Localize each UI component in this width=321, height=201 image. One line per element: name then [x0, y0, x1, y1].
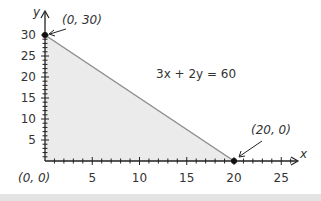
x-tick-label: 25	[274, 171, 289, 185]
x-tick-label: 5	[88, 171, 96, 185]
x-tick-label: 10	[132, 171, 147, 185]
arrowhead-20-0-icon	[239, 151, 245, 157]
y-tick-label: 20	[21, 70, 36, 84]
arrow-20-0-icon	[240, 141, 262, 156]
equation-label: 3x + 2y = 60	[156, 67, 236, 81]
chart-figure: 510152025 51015202530 x y (0, 30) (20, 0…	[0, 0, 321, 201]
point-label-0-30: (0, 30)	[62, 13, 102, 27]
bottom-band	[0, 194, 321, 201]
x-tick-label: 15	[179, 171, 194, 185]
y-tick-label: 30	[21, 28, 36, 42]
y-tick-label: 5	[28, 133, 36, 147]
point-label-20-0: (20, 0)	[251, 123, 291, 137]
x-tick-label: 20	[226, 171, 241, 185]
y-tick-label: 15	[21, 91, 36, 105]
point-0-30	[42, 32, 48, 38]
x-axis-label: x	[299, 147, 308, 161]
chart-svg: 510152025 51015202530 x y (0, 30) (20, 0…	[0, 0, 321, 201]
origin-label: (0, 0)	[18, 171, 50, 185]
point-20-0	[231, 158, 237, 164]
y-tick-label: 10	[21, 112, 36, 126]
y-axis-label: y	[32, 5, 41, 19]
y-tick-label: 25	[21, 49, 36, 63]
